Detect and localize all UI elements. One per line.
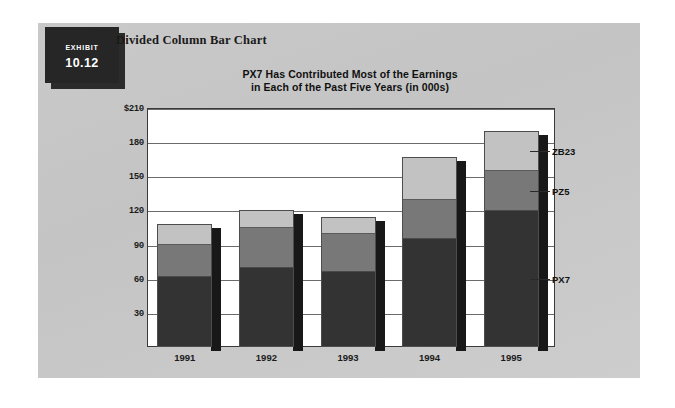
bar-group[interactable] <box>321 108 376 347</box>
series-label-pz5: PZ5 <box>552 185 569 196</box>
bar-segment-px7[interactable] <box>322 272 375 346</box>
stacked-bar[interactable] <box>157 224 212 347</box>
stacked-bar[interactable] <box>402 157 457 347</box>
series-leader-line <box>530 191 550 192</box>
bar-segment-pz5[interactable] <box>403 200 456 239</box>
y-axis-tick-mark <box>139 108 144 109</box>
y-axis: $210180150120906030 <box>108 108 144 347</box>
exhibit-tag-word: Exhibit <box>65 40 98 52</box>
bar-group[interactable] <box>402 108 457 347</box>
y-axis-tick-mark <box>139 176 144 177</box>
bar-group[interactable] <box>239 108 294 347</box>
bar-segment-pz5[interactable] <box>158 245 211 276</box>
bar-segment-pz5[interactable] <box>240 228 293 267</box>
series-label-px7: PX7 <box>552 273 570 284</box>
y-axis-tick-mark <box>139 313 144 314</box>
bar-shadow <box>211 228 221 351</box>
bar-group[interactable] <box>157 108 212 347</box>
bar-segment-px7[interactable] <box>403 239 456 346</box>
x-axis-tick-label: 1992 <box>256 352 277 363</box>
x-axis-tick-label: 1991 <box>174 352 195 363</box>
bar-shadow <box>293 214 303 351</box>
y-axis-tick-mark <box>139 210 144 211</box>
x-axis: 19911992199319941995 <box>147 352 555 370</box>
series-label-zb23: ZB23 <box>552 145 575 156</box>
stacked-bar[interactable] <box>321 217 376 347</box>
series-leader-line <box>530 151 550 152</box>
bar-segment-zb23[interactable] <box>322 218 375 234</box>
bar-segment-zb23[interactable] <box>158 225 211 245</box>
y-axis-tick-mark <box>139 142 144 143</box>
exhibit-tag-number: 10.12 <box>65 56 98 70</box>
bar-shadow <box>456 161 466 351</box>
y-axis-tick-mark <box>139 245 144 246</box>
series-callouts: ZB23PZ5PX7 <box>500 108 610 358</box>
chart-title: PX7 Has Contributed Most of the Earnings… <box>150 68 550 94</box>
x-axis-tick-label: 1994 <box>419 352 440 363</box>
chart-title-line-1: PX7 Has Contributed Most of the Earnings <box>150 68 550 81</box>
x-axis-tick-label: 1993 <box>337 352 358 363</box>
bar-segment-px7[interactable] <box>240 268 293 346</box>
exhibit-heading: Divided Column Bar Chart <box>116 33 267 48</box>
bar-segment-zb23[interactable] <box>403 158 456 200</box>
bars-layer <box>147 108 555 347</box>
exhibit-tag: Exhibit 10.12 <box>45 27 119 83</box>
chart-title-line-2: in Each of the Past Five Years (in 000s) <box>150 81 550 94</box>
bar-segment-zb23[interactable] <box>240 211 293 228</box>
bar-shadow <box>375 221 385 351</box>
bar-segment-pz5[interactable] <box>322 234 375 272</box>
stacked-bar[interactable] <box>239 210 294 347</box>
y-axis-tick-mark <box>139 279 144 280</box>
series-leader-line <box>530 279 550 280</box>
bar-segment-px7[interactable] <box>158 277 211 346</box>
